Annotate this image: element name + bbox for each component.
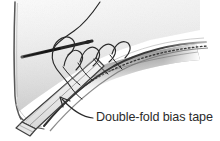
illustration-figure: Double-fold bias tape (0, 0, 220, 141)
sewing-illustration-canvas: Double-fold bias tape (0, 0, 220, 141)
callout-label-bias-tape: Double-fold bias tape (96, 110, 213, 124)
